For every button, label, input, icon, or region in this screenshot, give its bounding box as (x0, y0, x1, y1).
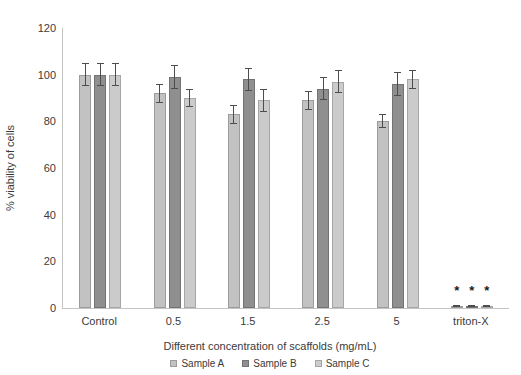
bar-sample-b-1-5 (243, 79, 255, 308)
error-bar-sample-a-control (82, 63, 89, 86)
y-tick-label-0: 0 (18, 301, 56, 315)
y-tick-label-40: 40 (18, 208, 56, 222)
legend-item-sample-a: Sample A (170, 358, 224, 369)
bar-sample-a-2-5 (302, 100, 314, 308)
x-tick-label-triton-x: triton-X (431, 314, 511, 328)
legend-item-sample-c: Sample C (315, 358, 370, 369)
error-bar-sample-b-triton-x (468, 305, 475, 307)
bar-sample-c-1-5 (258, 100, 270, 308)
error-bar-sample-b-5 (394, 72, 401, 95)
bar-sample-a-0-5 (154, 93, 166, 308)
error-bar-sample-c-2-5 (335, 70, 342, 93)
bar-sample-b-control (94, 75, 106, 308)
error-bar-sample-b-1-5 (245, 68, 252, 91)
legend-swatch-sample-b (242, 360, 249, 367)
error-bar-sample-a-5 (379, 114, 386, 128)
legend-label-sample-a: Sample A (181, 358, 224, 369)
x-tick-label-2-5: 2.5 (282, 314, 362, 328)
error-bar-sample-a-triton-x (453, 305, 460, 307)
y-tick-label-100: 100 (18, 68, 56, 82)
y-axis-title: % viability of cells (4, 28, 16, 308)
bar-sample-c-2-5 (332, 82, 344, 308)
legend-label-sample-b: Sample B (253, 358, 296, 369)
plot-area: *** (62, 28, 509, 309)
x-tick-label-5: 5 (357, 314, 437, 328)
x-axis-title: Different concentration of scaffolds (mg… (40, 340, 500, 352)
x-tick-label-control: Control (59, 314, 139, 328)
x-tick-label-0-5: 0.5 (134, 314, 214, 328)
bar-chart-figure: % viability of cells *** Different conce… (0, 0, 521, 375)
bar-sample-b-5 (392, 84, 404, 308)
bar-sample-c-control (109, 75, 121, 308)
error-bar-sample-c-5 (409, 70, 416, 89)
y-tick-label-80: 80 (18, 114, 56, 128)
y-tick-label-60: 60 (18, 161, 56, 175)
error-bar-sample-a-2-5 (305, 91, 312, 110)
bar-sample-c-5 (407, 79, 419, 308)
legend-swatch-sample-a (170, 360, 177, 367)
error-bar-sample-c-0-5 (186, 89, 193, 108)
x-tick-label-1-5: 1.5 (208, 314, 288, 328)
bar-sample-c-0-5 (184, 98, 196, 308)
error-bar-sample-b-control (97, 63, 104, 86)
legend-label-sample-c: Sample C (326, 358, 370, 369)
error-bar-sample-c-1-5 (260, 89, 267, 112)
bar-sample-b-2-5 (317, 89, 329, 308)
significance-marker: * (467, 286, 477, 296)
bar-sample-a-1-5 (228, 114, 240, 308)
error-bar-sample-c-triton-x (483, 305, 490, 307)
error-bar-sample-a-1-5 (230, 105, 237, 124)
y-tick-label-20: 20 (18, 254, 56, 268)
error-bar-sample-a-0-5 (156, 84, 163, 103)
error-bar-sample-b-0-5 (171, 65, 178, 88)
significance-marker: * (452, 286, 462, 296)
legend-item-sample-b: Sample B (242, 358, 296, 369)
error-bar-sample-b-2-5 (320, 77, 327, 100)
bar-sample-a-5 (377, 121, 389, 308)
bar-sample-b-0-5 (169, 77, 181, 308)
significance-marker: * (482, 286, 492, 296)
error-bar-sample-c-control (112, 63, 119, 86)
bar-sample-a-control (79, 75, 91, 308)
legend-swatch-sample-c (315, 360, 322, 367)
y-tick-label-120: 120 (18, 21, 56, 35)
legend: Sample ASample BSample C (40, 358, 500, 369)
